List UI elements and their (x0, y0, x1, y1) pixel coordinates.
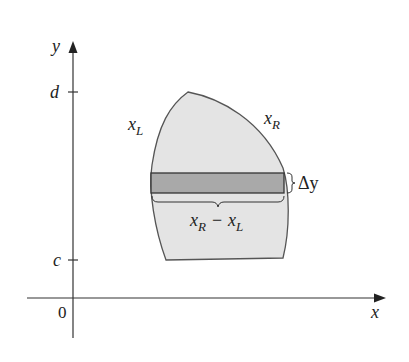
tick-label-c: c (53, 250, 61, 270)
tick-label-d: d (50, 82, 60, 102)
y-axis-arrow-icon (69, 41, 78, 53)
horizontal-strip (151, 173, 284, 193)
diagram-canvas: y x 0 d c xL xR Δy xR−xL (0, 0, 409, 362)
height-brace (287, 173, 295, 193)
y-axis-label: y (50, 36, 60, 56)
x-axis-label: x (370, 302, 379, 322)
left-curve-label: xL (127, 114, 143, 138)
right-curve-label: xR (263, 108, 280, 132)
origin-label: 0 (58, 303, 67, 322)
delta-y-label: Δy (298, 173, 319, 193)
